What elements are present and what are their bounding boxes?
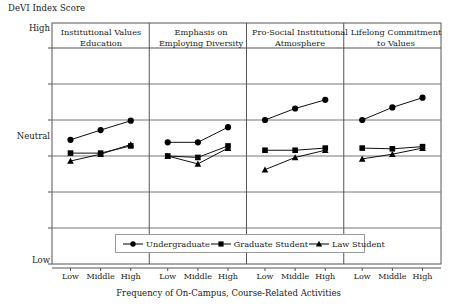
panel-title-0: Institutional Values Education [55, 27, 147, 48]
panel-title-0-line1: Institutional Values [61, 27, 141, 37]
panel-title-3-line2: to Values [377, 38, 415, 48]
panel-title-2-line2: Atmosphere [275, 38, 325, 48]
square-marker-icon [210, 239, 232, 249]
legend-label-undergraduate: Undergraduate [146, 239, 210, 249]
triangle-marker-icon [308, 239, 330, 249]
legend-item-law-student: Law Student [308, 239, 385, 249]
legend-item-graduate-student: Graduate Student [210, 239, 308, 249]
chart-figure: DeVI Index Score High Neutral Low Instit… [0, 0, 457, 306]
panel-title-0-line2: Education [80, 38, 122, 48]
circle-marker-icon [122, 239, 144, 249]
panel-title-1: Emphasis on Employing Diversity [155, 27, 247, 48]
legend-label-graduate-student: Graduate Student [234, 239, 308, 249]
legend-item-undergraduate: Undergraduate [122, 239, 210, 249]
panel-title-1-line2: Employing Diversity [159, 38, 243, 48]
panel-title-3-line1: Lifelong Commitment [351, 27, 441, 37]
panel-title-3: Lifelong Commitment to Values [350, 27, 442, 48]
x-tick-label: High [401, 272, 445, 281]
x-axis-title: Frequency of On-Campus, Course-Related A… [0, 288, 457, 298]
legend-label-law-student: Law Student [332, 239, 385, 249]
chart-legend: Undergraduate Graduate Student Law Stude… [115, 234, 365, 253]
panel-title-2-line1: Pro-Social Institutional [252, 27, 348, 37]
panel-title-1-line1: Emphasis on [175, 27, 228, 37]
panel-title-2: Pro-Social Institutional Atmosphere [252, 27, 348, 48]
